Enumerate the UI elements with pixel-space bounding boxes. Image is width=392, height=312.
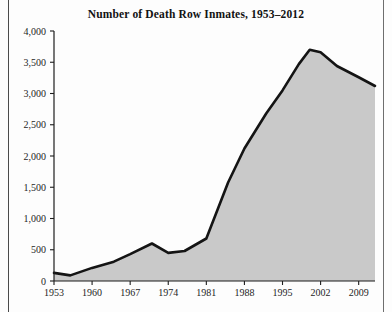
x-axis-tick-label: 2009	[349, 287, 369, 298]
x-axis-tick-label: 2002	[311, 287, 331, 298]
y-axis-tick-label: 4,000	[24, 26, 47, 37]
x-axis-tick-label: 1988	[234, 287, 254, 298]
x-axis-tick-label: 1953	[44, 287, 64, 298]
y-axis-tick-label: 1,000	[24, 213, 47, 224]
y-axis-tick-label: 3,500	[24, 57, 47, 68]
x-axis: 195319601967197419811988199520022009	[44, 281, 375, 298]
y-axis-tick-label: 2,500	[24, 119, 47, 130]
y-axis-tick-label: 1,500	[24, 182, 47, 193]
area-fill-group	[54, 50, 375, 281]
y-axis-tick-label: 0	[41, 276, 46, 287]
x-axis-tick-label: 1960	[82, 287, 102, 298]
y-axis-tick-label: 3,000	[24, 88, 47, 99]
x-axis-tick-label: 1981	[196, 287, 216, 298]
y-axis-tick-label: 500	[31, 244, 46, 255]
y-axis: 05001,0001,5002,0002,5003,0003,5004,000	[24, 26, 55, 287]
area-fill-path	[54, 50, 375, 281]
x-axis-tick-label: 1967	[120, 287, 140, 298]
y-axis-tick-label: 2,000	[24, 151, 47, 162]
x-axis-tick-label: 1995	[273, 287, 293, 298]
x-axis-tick-label: 1974	[158, 287, 178, 298]
area-chart-plot: 05001,0001,5002,0002,5003,0003,5004,000 …	[0, 0, 392, 312]
figure-root: Number of Death Row Inmates, 1953–2012 0…	[0, 0, 392, 312]
